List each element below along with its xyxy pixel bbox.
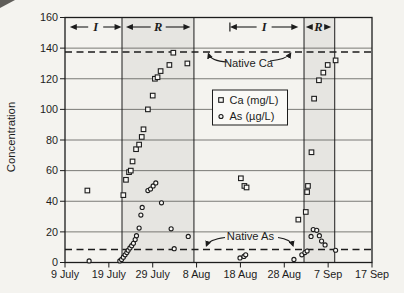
legend-circle-icon [219,114,223,118]
as-point [309,234,313,238]
as-point [169,227,173,231]
ca-point [244,185,249,190]
ca-point [309,150,314,155]
native-line-label: Native As [227,230,275,242]
ca-point [121,193,126,198]
ca-point [171,50,176,55]
ca-point [312,96,317,101]
as-point [172,247,176,251]
ca-point [130,159,135,164]
x-tick-label: 28 Aug [267,268,301,280]
as-point [139,213,143,217]
as-point [292,257,296,261]
as-point [320,239,324,243]
ca-point [137,142,142,147]
y-tick-label: 100 [40,103,58,115]
y-axis-label: Concentration [5,102,17,172]
ca-point [317,78,322,83]
as-point [317,234,321,238]
y-tick-label: 40 [46,195,58,207]
ca-point [155,75,160,80]
as-point [154,181,158,185]
ca-point [158,69,163,74]
phase-label: R [153,20,162,34]
x-tick-label: 29 July [136,268,171,280]
as-point [323,243,327,247]
concentration-chart: 0204060801001201401609 July19 July29 Jul… [0,0,404,293]
x-tick-label: 7 Sep [314,268,342,280]
ca-point [124,178,129,183]
ca-point [128,168,133,173]
ca-point [296,217,301,222]
ca-point [139,135,144,140]
native-line-label: Native Ca [224,57,274,69]
as-point [134,234,138,238]
ca-point [333,58,338,63]
ca-point [134,147,139,152]
figure: 0204060801001201401609 July19 July29 Jul… [0,0,404,293]
as-point [186,234,190,238]
ca-point [303,210,308,215]
as-point [87,259,91,263]
x-tick-label: 9 July [51,268,80,280]
ca-point [150,93,155,98]
legend-label-ca: Ca (mg/L) [230,94,279,106]
ca-point [167,63,172,68]
x-tick-label: 18 Aug [224,268,258,280]
ca-point [306,184,311,189]
legend-label-as: As (µg/L) [230,110,275,122]
y-tick-label: 60 [46,164,58,176]
ca-point [305,190,310,195]
ca-point [146,107,151,112]
ca-point [185,61,190,66]
phase-label: R [313,20,322,34]
y-tick-label: 120 [40,73,58,85]
as-point [140,205,144,209]
x-tick-label: 8 Aug [183,268,211,280]
as-point [334,248,338,252]
ca-point [239,176,244,181]
ca-point [85,188,90,193]
ca-point [141,127,146,132]
y-tick-label: 20 [46,226,58,238]
y-tick-label: 0 [52,256,58,268]
x-tick-label: 19 July [92,268,127,280]
as-point [159,201,163,205]
y-tick-label: 140 [40,42,58,54]
as-point [137,226,141,230]
x-tick-label: 17 Sep [355,268,389,280]
as-point [315,228,319,232]
y-tick-label: 160 [40,11,58,23]
ca-point [325,63,330,68]
ca-point [321,70,326,75]
legend: Ca (mg/L)As (µg/L) [213,90,288,125]
y-tick-label: 80 [46,134,58,146]
as-point [305,249,309,253]
legend-square-icon [219,98,224,103]
as-point [244,253,248,257]
